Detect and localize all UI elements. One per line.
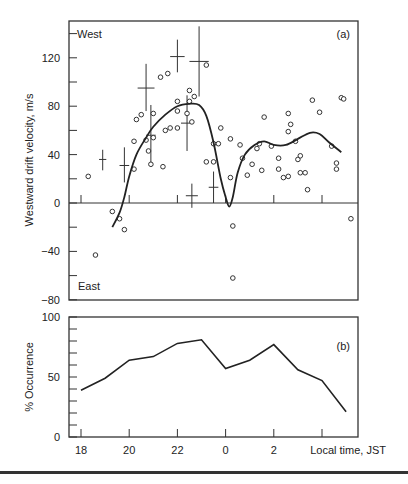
x-tick-label: 20 bbox=[123, 444, 135, 456]
data-point bbox=[218, 126, 223, 131]
data-point bbox=[204, 63, 209, 68]
data-point bbox=[216, 141, 221, 146]
data-point bbox=[245, 173, 250, 178]
panel-b-label: (b) bbox=[337, 340, 350, 352]
data-point bbox=[168, 126, 173, 131]
data-point bbox=[238, 143, 243, 148]
panel-a-velocity-chart: 12080400−40−80 West East (a) Westward dr… bbox=[23, 21, 358, 306]
data-point bbox=[317, 110, 322, 115]
data-point bbox=[93, 253, 98, 258]
y-tick-label: −80 bbox=[41, 294, 60, 306]
data-point bbox=[211, 160, 216, 165]
data-point bbox=[165, 71, 170, 76]
x-tick-label: 22 bbox=[171, 444, 183, 456]
west-label: West bbox=[77, 28, 102, 40]
panel-b-occurrence-chart: 050100 18202202 (b) % Occurrence Local t… bbox=[23, 311, 386, 456]
data-point bbox=[286, 174, 291, 179]
y-tick-label: 100 bbox=[42, 311, 60, 323]
data-point bbox=[276, 167, 281, 172]
data-point bbox=[262, 115, 267, 120]
data-point bbox=[286, 129, 291, 134]
data-point bbox=[139, 112, 144, 117]
data-point bbox=[151, 135, 156, 140]
y-tick-label: 50 bbox=[48, 371, 60, 383]
data-point bbox=[86, 174, 91, 179]
data-point bbox=[185, 111, 190, 116]
y-tick-label: 80 bbox=[48, 100, 60, 112]
panel-a-x-ticks bbox=[81, 195, 322, 203]
data-point bbox=[288, 122, 293, 127]
data-point bbox=[298, 170, 303, 175]
data-point bbox=[334, 167, 339, 172]
data-point bbox=[204, 160, 209, 165]
data-point bbox=[158, 75, 163, 80]
data-point bbox=[190, 120, 195, 125]
y-tick-label: −40 bbox=[41, 245, 60, 257]
data-point bbox=[231, 276, 236, 281]
y-tick-label: 120 bbox=[42, 52, 60, 64]
data-point bbox=[305, 187, 310, 192]
x-axis-title: Local time, JST bbox=[310, 444, 386, 456]
data-point bbox=[146, 149, 151, 154]
panel-a-y-axis: 12080400−40−80 bbox=[41, 34, 77, 306]
figure: 12080400−40−80 West East (a) Westward dr… bbox=[0, 0, 408, 484]
data-point bbox=[132, 139, 137, 144]
y-tick-label: 0 bbox=[54, 431, 60, 443]
data-point bbox=[303, 170, 308, 175]
x-tick-label: 0 bbox=[223, 444, 229, 456]
data-point bbox=[276, 156, 281, 161]
data-point bbox=[187, 88, 192, 93]
data-point bbox=[161, 164, 166, 169]
data-point bbox=[255, 146, 260, 151]
panel-a-label: (a) bbox=[337, 28, 350, 40]
data-point bbox=[175, 126, 180, 131]
occurrence-line bbox=[81, 340, 346, 412]
data-point bbox=[231, 224, 236, 229]
data-point bbox=[228, 137, 233, 142]
data-point bbox=[122, 227, 127, 232]
y-tick-label: 40 bbox=[48, 149, 60, 161]
x-tick-label: 2 bbox=[271, 444, 277, 456]
data-point bbox=[151, 111, 156, 116]
data-point bbox=[259, 168, 264, 173]
panel-a-y-axis-title: Westward drift velocity, m/s bbox=[23, 93, 35, 226]
x-tick-label: 18 bbox=[75, 444, 87, 456]
data-point bbox=[175, 99, 180, 104]
data-point bbox=[286, 111, 291, 116]
data-point bbox=[310, 98, 315, 103]
data-point bbox=[298, 154, 303, 159]
data-point bbox=[281, 175, 286, 180]
data-point bbox=[149, 162, 154, 167]
error-crosses bbox=[99, 26, 218, 208]
panel-b-y-axis-title: % Occurrence bbox=[23, 342, 35, 412]
data-point bbox=[349, 216, 354, 221]
panel-b-y-axis: 050100 bbox=[42, 311, 77, 443]
y-tick-label: 0 bbox=[54, 197, 60, 209]
data-point bbox=[341, 97, 346, 102]
east-label: East bbox=[78, 280, 100, 292]
data-point bbox=[192, 94, 197, 99]
bottom-rule-divider bbox=[0, 471, 408, 474]
data-point bbox=[163, 128, 168, 133]
panel-b-x-axis: 18202202 bbox=[75, 429, 322, 456]
data-point bbox=[228, 175, 233, 180]
smoothed-mean-curve bbox=[112, 104, 341, 228]
data-point bbox=[334, 161, 339, 166]
data-point bbox=[134, 117, 139, 122]
data-point bbox=[250, 162, 255, 167]
data-point bbox=[110, 209, 115, 214]
data-point bbox=[175, 109, 180, 114]
